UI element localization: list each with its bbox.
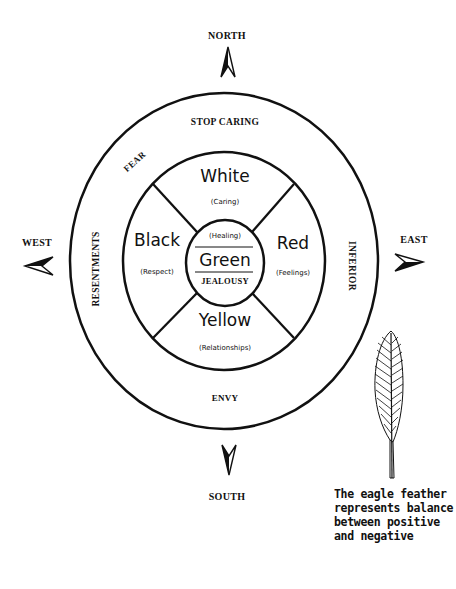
west-label: WEST <box>22 238 52 248</box>
caring-label: (Caring) <box>211 199 239 206</box>
healing-label: (Healing) <box>209 233 241 240</box>
caption-line: and negative <box>334 529 453 543</box>
west-arrow-icon <box>25 257 53 275</box>
relationships-label: (Relationships) <box>199 345 251 352</box>
divider-nw <box>153 184 197 232</box>
jealousy-label: JEALOUSY <box>201 277 249 286</box>
white-quadrant-label: White <box>200 168 249 185</box>
south-arrow-icon <box>222 445 236 475</box>
resentments-label: RESENTMENTS <box>92 231 102 306</box>
caption-line: The eagle feather <box>334 487 453 501</box>
south-label: SOUTH <box>209 492 246 502</box>
divider-se <box>252 293 294 338</box>
black-quadrant-label: Black <box>134 232 180 249</box>
divider-ne <box>252 184 294 232</box>
yellow-quadrant-label: Yellow <box>199 312 251 329</box>
stop-caring-label: STOP CARING <box>191 118 259 128</box>
east-label: EAST <box>400 235 427 245</box>
green-center-label: Green <box>199 252 250 269</box>
east-arrow-icon <box>395 254 423 271</box>
red-quadrant-label: Red <box>277 235 309 252</box>
feelings-label: (Feelings) <box>276 270 310 277</box>
envy-label: ENVY <box>212 394 239 403</box>
caption-line: represents balance <box>334 501 453 515</box>
north-label: NORTH <box>208 31 246 41</box>
north-arrow-icon <box>221 47 235 77</box>
caption-line: between positive <box>334 515 453 529</box>
feather-caption: The eagle feather represents balance bet… <box>334 487 453 543</box>
eagle-feather-icon <box>375 331 403 478</box>
inferior-label: INFERIOR <box>346 241 356 291</box>
respect-label: (Respect) <box>140 269 173 276</box>
divider-sw <box>153 293 197 338</box>
